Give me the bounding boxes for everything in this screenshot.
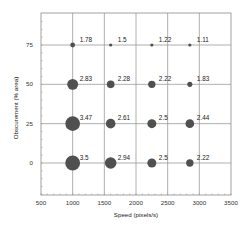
bubble-value-label: 2.61: [118, 114, 131, 121]
bubble-value-label: 3.47: [80, 114, 93, 121]
bubble-value-label: 2.44: [197, 114, 210, 121]
x-tick-label: 1500: [97, 199, 111, 206]
y-tick-label: 50: [26, 80, 33, 87]
bubble-value-label: 2.5: [159, 154, 168, 161]
x-axis-title: Speed (pixels/s): [114, 211, 158, 218]
y-axis-tick-labels: 0255075: [26, 41, 33, 166]
x-tick-label: 2500: [161, 199, 175, 206]
bubble-value-label: 2.5: [159, 114, 168, 121]
x-axis-tick-labels: 500100015002000250030003500: [36, 199, 239, 206]
bubble: [109, 43, 112, 46]
y-tick-label: 75: [26, 41, 33, 48]
bubble: [105, 157, 117, 169]
data-labels: 1.781.51.221.112.832.282.221.833.472.612…: [80, 36, 210, 161]
x-tick-label: 1000: [66, 199, 80, 206]
bubble-value-label: 2.83: [80, 75, 93, 82]
bubble-value-label: 1.5: [118, 36, 127, 43]
bubble-chart: 1.781.51.221.112.832.282.221.833.472.612…: [0, 0, 252, 231]
bubble: [186, 159, 193, 166]
bubble: [65, 116, 80, 131]
bubble: [107, 80, 115, 88]
bubble: [67, 79, 78, 90]
bubble-value-label: 3.5: [80, 154, 89, 161]
bubble: [70, 43, 75, 48]
bubble: [186, 119, 195, 128]
x-tick-label: 3000: [192, 199, 206, 206]
bubbles: [65, 43, 194, 171]
bubble: [65, 156, 80, 171]
x-tick-label: 3500: [224, 199, 238, 206]
y-axis-title: Obscurement (% area): [12, 77, 19, 140]
bubble-value-label: 2.22: [159, 75, 172, 82]
bubble-value-label: 1.83: [197, 75, 210, 82]
bubble: [148, 81, 155, 88]
bubble: [187, 82, 192, 87]
bubble-value-label: 2.22: [197, 154, 210, 161]
bubble-value-label: 2.28: [118, 75, 131, 82]
y-tick-label: 25: [26, 120, 33, 127]
bubble-value-label: 1.11: [197, 36, 209, 43]
x-tick-label: 2000: [129, 199, 143, 206]
y-tick-label: 0: [30, 159, 34, 166]
bubble: [147, 159, 156, 168]
bubble-value-label: 1.22: [159, 36, 172, 43]
bubble: [147, 119, 156, 128]
x-tick-label: 500: [36, 199, 47, 206]
bubble-value-label: 2.94: [118, 154, 131, 161]
bubble-value-label: 1.78: [80, 36, 93, 43]
bubble: [106, 119, 116, 129]
bubble: [188, 43, 191, 46]
bubble: [150, 43, 153, 46]
